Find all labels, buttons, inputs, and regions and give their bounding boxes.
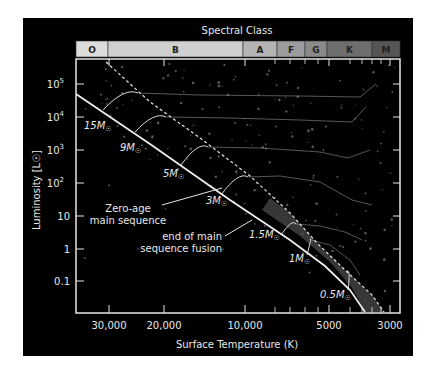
star-dot <box>209 84 211 86</box>
star-dot <box>292 196 294 198</box>
star-dot <box>353 224 354 225</box>
mass-track-tail <box>208 147 370 158</box>
star-dot <box>145 147 147 149</box>
star-dot <box>285 97 287 99</box>
spectral-class-label: G <box>312 45 319 55</box>
star-dot <box>141 144 143 146</box>
star-dot <box>218 156 219 157</box>
star-dot <box>110 85 112 87</box>
star-dot <box>341 107 343 109</box>
star-dot <box>339 245 341 247</box>
star-dot <box>372 71 375 74</box>
star-dot <box>146 129 149 132</box>
star-dot <box>121 66 123 68</box>
x-tick-label: 3000 <box>377 320 402 331</box>
star-dot <box>355 104 356 105</box>
star-dot <box>361 119 362 120</box>
star-dot <box>308 271 310 273</box>
star-dot <box>383 131 385 133</box>
zams-label-1: Zero-age <box>105 203 150 214</box>
tams-label-1: end of main <box>162 231 222 242</box>
star-dot <box>323 149 325 151</box>
spectral-class-label: K <box>346 45 354 55</box>
spectral-class-bar: OBAFGKM <box>76 41 400 57</box>
mass-track-tail <box>138 84 376 97</box>
star-dot <box>85 108 87 110</box>
star-dot <box>388 65 389 66</box>
star-dot <box>183 70 184 71</box>
y-axis-label: Luminosity [L☉] <box>31 150 42 230</box>
star-dot <box>264 225 266 227</box>
star-dot <box>168 63 170 65</box>
x-tick-label: 30,000 <box>92 320 127 331</box>
star-dot <box>391 218 394 221</box>
evolutionary-tracks <box>103 84 376 290</box>
star-dot <box>341 105 342 106</box>
star-dot <box>182 77 184 79</box>
star-dot <box>102 103 103 104</box>
star-dot <box>380 143 382 145</box>
spectral-class-title: Spectral Class <box>202 25 273 36</box>
star-dot <box>217 81 220 84</box>
star-dot <box>218 85 221 88</box>
star-dot <box>105 80 107 82</box>
y-tick-label: 104 <box>47 110 65 123</box>
star-dot <box>390 172 392 174</box>
star-dot <box>380 162 382 164</box>
star-dot <box>167 74 169 76</box>
star-dot <box>331 250 333 252</box>
star-dot <box>337 227 338 228</box>
star-dot <box>342 246 344 248</box>
star-dot <box>292 105 294 107</box>
star-dot <box>208 132 210 134</box>
star-dot <box>235 172 237 174</box>
star-scatter <box>84 63 395 302</box>
star-dot <box>193 125 195 127</box>
star-dot <box>253 189 255 191</box>
star-dot <box>365 240 367 242</box>
y-tick-label: 10 <box>57 211 70 222</box>
hr-diagram: Spectral Class OBAFGKM 30,00020,00010,00… <box>0 0 430 378</box>
star-dot <box>116 107 118 109</box>
star-dot <box>336 176 338 178</box>
y-axis-ticks: 1051041031021010.1 <box>47 77 400 287</box>
mass-track-tail <box>248 176 372 205</box>
star-dot <box>268 70 270 72</box>
spectral-class-label: M <box>382 45 391 55</box>
star-dot <box>246 124 248 126</box>
star-dot <box>286 204 288 206</box>
star-dot <box>383 228 386 231</box>
star-dot <box>383 258 386 261</box>
mass-label: 9M☉ <box>120 142 141 155</box>
y-tick-label: 103 <box>47 143 64 156</box>
star-dot <box>336 213 338 215</box>
star-dot <box>266 73 268 75</box>
x-tick-label: 5000 <box>316 320 341 331</box>
star-dot <box>269 161 271 163</box>
star-dot <box>362 128 363 129</box>
mass-label: 5M☉ <box>163 168 184 181</box>
star-dot <box>151 137 153 139</box>
star-dot <box>308 142 309 143</box>
star-dot <box>105 68 107 70</box>
star-dot <box>312 177 314 179</box>
star-dot <box>84 257 86 259</box>
mass-track-arc <box>221 176 248 195</box>
mass-label: 0.5M☉ <box>320 289 351 302</box>
star-dot <box>209 157 211 159</box>
x-tick-label: 20,000 <box>147 320 182 331</box>
star-dot <box>235 76 237 78</box>
star-dot <box>108 184 110 186</box>
star-dot <box>258 93 260 95</box>
star-dot <box>291 132 292 133</box>
star-dot <box>165 208 167 210</box>
x-axis-label: Surface Temperature (K) <box>176 339 298 350</box>
star-dot <box>376 85 378 87</box>
star-dot <box>394 67 395 68</box>
star-dot <box>354 241 356 243</box>
star-dot <box>246 140 247 141</box>
star-dot <box>132 100 133 101</box>
star-dot <box>391 91 393 93</box>
star-dot <box>360 228 362 230</box>
star-dot <box>201 108 203 110</box>
